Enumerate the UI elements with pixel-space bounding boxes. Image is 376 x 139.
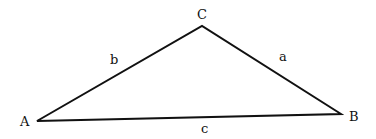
side-label-b: b	[110, 52, 118, 67]
side-label-a: a	[279, 49, 287, 64]
triangle-abc	[37, 26, 341, 121]
vertex-label-b: B	[349, 109, 359, 124]
vertex-label-a: A	[19, 114, 30, 129]
triangle-diagram: A B C b a c	[0, 0, 376, 139]
vertex-label-c: C	[197, 7, 207, 22]
side-label-c: c	[201, 121, 208, 136]
